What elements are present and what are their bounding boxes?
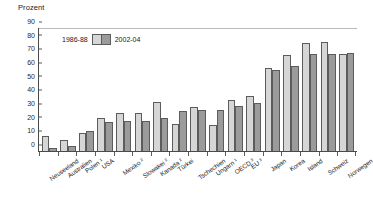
bar-group: [59, 28, 78, 151]
bar-1986-88: [339, 54, 347, 151]
bar-2002-04: [105, 122, 113, 151]
x-axis-label-cell: Türkei: [169, 156, 188, 192]
bar-1986-88: [190, 107, 198, 151]
bar-1986-88: [79, 133, 87, 151]
bar-2002-04: [198, 110, 206, 151]
x-axis-label-cell: Korea: [281, 156, 300, 192]
bar-1986-88: [321, 42, 329, 151]
legend-label-series-0: 1986-88: [62, 36, 88, 43]
bar-group: [207, 28, 226, 151]
bar-group: [77, 28, 96, 151]
x-axis-label-cell: EU ³: [244, 156, 263, 192]
bar-2002-04: [347, 53, 355, 151]
y-axis-tick-label: 40: [27, 86, 39, 93]
bar-1986-88: [116, 113, 124, 151]
bar-2002-04: [291, 66, 299, 151]
bar-1986-88: [283, 55, 291, 151]
plot-area: 0102030405060708090: [38, 28, 357, 152]
bar-2002-04: [272, 70, 280, 151]
bar-2002-04: [254, 103, 262, 151]
bar-group: [319, 28, 338, 151]
bar-2002-04: [328, 54, 336, 151]
y-axis-tick-label: 50: [27, 72, 39, 79]
bar-group: [96, 28, 115, 151]
bar-2002-04: [161, 118, 169, 151]
bar-1986-88: [60, 140, 68, 151]
bar-1986-88: [42, 136, 50, 151]
bar-2002-04: [310, 54, 318, 151]
x-axis-label-cell: OECD ³: [225, 156, 244, 192]
bar-group: [263, 28, 282, 151]
y-axis-tick-label: 90: [27, 18, 39, 25]
bar-1986-88: [265, 68, 273, 151]
x-axis-label-cell: Japan: [263, 156, 282, 192]
bar-1986-88: [172, 124, 180, 151]
bar-2002-04: [49, 148, 57, 151]
y-axis-tick-label: 70: [27, 45, 39, 52]
y-axis-tick-label: 60: [27, 59, 39, 66]
bar-group: [245, 28, 264, 151]
y-axis-tick-label: 20: [27, 113, 39, 120]
x-axis-label-cell: Polen ¹: [76, 156, 95, 192]
bar-2002-04: [179, 111, 187, 151]
x-axis-label-cell: Mexiko ²: [114, 156, 133, 192]
x-axis-label-cell: Slowakei ²: [132, 156, 151, 192]
bar-1986-88: [97, 118, 105, 151]
bar-2002-04: [235, 106, 243, 151]
bar-group: [282, 28, 301, 151]
bar-group: [226, 28, 245, 151]
bar-group: [338, 28, 357, 151]
bar-2002-04: [124, 121, 132, 151]
x-axis-label: Norwegen: [346, 157, 373, 179]
bar-1986-88: [153, 102, 161, 151]
x-axis-label-cell: Norwegen: [337, 156, 356, 192]
y-axis-title: Prozent: [18, 3, 45, 12]
legend-swatch-2002-04: [102, 35, 110, 44]
bar-group: [114, 28, 133, 151]
legend-swatches: [92, 34, 111, 45]
legend-label-series-1: 2002-04: [115, 36, 141, 43]
x-axis-label-cell: Schweiz: [319, 156, 338, 192]
bar-1986-88: [209, 125, 217, 151]
bar-2002-04: [217, 110, 225, 151]
bar-series-container: [39, 28, 357, 151]
chart-legend: 1986-88 2002-04: [62, 34, 140, 45]
x-axis-label-cell: Island: [300, 156, 319, 192]
bar-1986-88: [246, 96, 254, 151]
bar-group: [133, 28, 152, 151]
bar-1986-88: [135, 113, 143, 151]
bar-2002-04: [86, 131, 94, 152]
bar-2002-04: [68, 146, 76, 151]
y-axis-tick-label: 30: [27, 100, 39, 107]
x-axis-label-cell: Kanada ²: [151, 156, 170, 192]
y-axis-tick-label: 0: [31, 141, 39, 148]
legend-swatch-1986-88: [93, 35, 102, 44]
bar-1986-88: [228, 100, 236, 151]
y-axis-tick-label: 80: [27, 31, 39, 38]
bar-group: [40, 28, 59, 151]
y-axis-tick-label: 10: [27, 127, 39, 134]
bar-group: [189, 28, 208, 151]
x-axis-label-cell: Neuseeland: [39, 156, 58, 192]
bar-group: [300, 28, 319, 151]
x-axis-label-cell: Ungarn ¹: [207, 156, 226, 192]
x-axis-label-cell: Tschechien: [188, 156, 207, 192]
bar-1986-88: [302, 43, 310, 151]
x-axis-label-cell: Australien: [58, 156, 77, 192]
bar-2002-04: [142, 121, 150, 151]
x-axis-label-cell: USA: [95, 156, 114, 192]
x-axis-labels: NeuseelandAustralienPolen ¹USAMexiko ²Sl…: [38, 156, 357, 192]
bar-group: [152, 28, 171, 151]
bar-group: [170, 28, 189, 151]
